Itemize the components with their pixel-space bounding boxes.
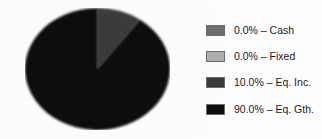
legend-item-eq-gth[interactable]: 90.0% – Eq. Gth. (206, 96, 322, 122)
legend-swatch-fixed (206, 51, 225, 62)
legend-swatch-eq-gth (206, 104, 225, 115)
legend-swatch-eq-inc (206, 77, 225, 88)
pie-slice-eq-gth (25, 8, 170, 130)
legend-label-eq-gth: 90.0% – Eq. Gth. (234, 104, 314, 115)
legend-label-cash: 0.0% – Cash (234, 25, 294, 36)
legend-item-eq-inc[interactable]: 10.0% – Eq. Inc. (206, 70, 322, 96)
pie-chart-figure: 0.0% – Cash 0.0% – Fixed 10.0% – Eq. Inc… (0, 0, 322, 139)
chart-legend: 0.0% – Cash 0.0% – Fixed 10.0% – Eq. Inc… (206, 17, 322, 123)
legend-item-fixed[interactable]: 0.0% – Fixed (206, 43, 322, 69)
pie-svg (25, 8, 170, 130)
legend-label-eq-inc: 10.0% – Eq. Inc. (234, 77, 311, 88)
pie-chart-graphic (25, 8, 170, 130)
legend-item-cash[interactable]: 0.0% – Cash (206, 17, 322, 43)
legend-label-fixed: 0.0% – Fixed (234, 51, 295, 62)
legend-swatch-cash (206, 25, 225, 36)
